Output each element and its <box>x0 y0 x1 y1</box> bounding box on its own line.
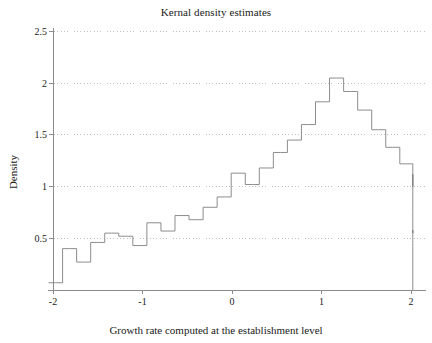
x-tick-label: 2 <box>409 296 414 307</box>
kernel-density-figure: Kernal density estimates Density -2-1012… <box>0 0 432 343</box>
x-tick-label: -2 <box>49 296 57 307</box>
x-tick-label: 0 <box>230 296 235 307</box>
x-tick-label: -1 <box>138 296 146 307</box>
axis-lines <box>48 28 426 290</box>
x-axis-ticks: -2-1012 <box>49 290 414 307</box>
y-tick-label: 1.5 <box>35 129 48 140</box>
x-axis-label: Growth rate computed at the establishmen… <box>0 324 432 336</box>
y-tick-label: 1 <box>42 181 47 192</box>
density-step-line <box>49 78 413 290</box>
x-tick-label: 1 <box>319 296 324 307</box>
y-tick-label: 2 <box>42 78 47 89</box>
y-tick-label: 0.5 <box>35 233 48 244</box>
plot-area: -2-1012 0.511.522.5 <box>0 0 432 343</box>
y-tick-label: 2.5 <box>35 26 48 37</box>
gridlines <box>54 32 426 239</box>
y-axis-ticks: 0.511.522.5 <box>35 26 54 244</box>
